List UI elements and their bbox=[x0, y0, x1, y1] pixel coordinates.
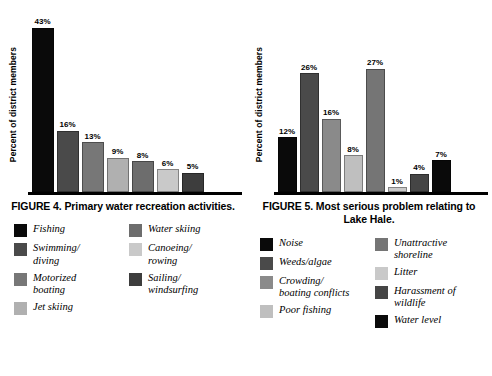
figure-4-legend: FishingSwimming/ divingMotorized boating… bbox=[0, 213, 246, 319]
bar-slot: 6% bbox=[155, 6, 180, 192]
legend-column-1: NoiseWeeds/algaeCrowding/ boating confli… bbox=[260, 237, 371, 333]
bar bbox=[300, 73, 319, 192]
bar-slot: 4% bbox=[408, 6, 430, 192]
bar bbox=[57, 131, 79, 192]
legend-item: Swimming/ diving bbox=[14, 242, 125, 266]
bar-slot: 12% bbox=[276, 6, 298, 192]
bar-slot: 16% bbox=[55, 6, 80, 192]
legend-item-label: Sailing/ windsurfing bbox=[148, 272, 198, 296]
legend-item-label: Swimming/ diving bbox=[33, 242, 80, 266]
legend-swatch-unattractive-shoreline bbox=[375, 238, 388, 251]
legend-column-2: Water skiingCanoeing/ rowingSailing/ win… bbox=[129, 223, 240, 319]
legend-item: Unattractive shoreline bbox=[375, 237, 486, 261]
figure-5-plot: 12%26%16%8%27%1%4%7% bbox=[272, 0, 492, 196]
figure-5-x-axis-line bbox=[274, 192, 488, 195]
bar bbox=[132, 161, 154, 192]
legend-item-label: Noise bbox=[279, 237, 303, 249]
bar bbox=[278, 137, 297, 192]
figure-5-y-axis-label-text: Percent of district members bbox=[254, 47, 264, 162]
bar bbox=[32, 28, 54, 192]
bar-value-label: 8% bbox=[137, 152, 149, 160]
legend-item-label: Litter bbox=[394, 266, 417, 278]
legend-swatch-harassment-of-wildlife bbox=[375, 286, 388, 299]
legend-swatch-crowding-boating-conflicts bbox=[260, 276, 273, 289]
legend-column-2: Unattractive shorelineLitterHarassment o… bbox=[375, 237, 486, 333]
legend-swatch-motorized-boating bbox=[14, 273, 27, 286]
bar-value-label: 6% bbox=[162, 160, 174, 168]
legend-item: Noise bbox=[260, 237, 371, 251]
legend-swatch-fishing bbox=[14, 224, 27, 237]
figure-5-bar-group: 12%26%16%8%27%1%4%7% bbox=[276, 6, 484, 192]
bar bbox=[344, 155, 363, 192]
bar-slot: 43% bbox=[30, 6, 55, 192]
legend-column-1: FishingSwimming/ divingMotorized boating… bbox=[14, 223, 125, 319]
bar-value-label: 16% bbox=[59, 121, 75, 129]
bar-value-label: 12% bbox=[279, 128, 295, 136]
legend-item-label: Unattractive shoreline bbox=[394, 237, 447, 261]
bar bbox=[432, 160, 451, 192]
legend-swatch-noise bbox=[260, 238, 273, 251]
legend-item-label: Poor fishing bbox=[279, 304, 331, 316]
legend-swatch-canoeing-rowing bbox=[129, 243, 142, 256]
bar-slot: 16% bbox=[320, 6, 342, 192]
legend-item: Litter bbox=[375, 266, 486, 280]
legend-item-label: Crowding/ boating conflicts bbox=[279, 275, 349, 299]
legend-item: Water skiing bbox=[129, 223, 240, 237]
bar-value-label: 5% bbox=[187, 163, 199, 171]
legend-item-label: Water skiing bbox=[148, 223, 200, 235]
legend-item-label: Water level bbox=[394, 314, 441, 326]
bar-value-label: 7% bbox=[435, 151, 447, 159]
bar bbox=[182, 173, 204, 192]
bar-value-label: 1% bbox=[391, 178, 403, 186]
legend-swatch-poor-fishing bbox=[260, 305, 273, 318]
bar bbox=[410, 174, 429, 192]
bar bbox=[157, 169, 179, 192]
legend-item: Motorized boating bbox=[14, 272, 125, 296]
bar-value-label: 9% bbox=[112, 148, 124, 156]
legend-item-label: Weeds/algae bbox=[279, 256, 332, 268]
legend-item: Weeds/algae bbox=[260, 256, 371, 270]
figures-page: Percent of district members 43%16%13%9%8… bbox=[0, 0, 492, 376]
bar-value-label: 4% bbox=[413, 164, 425, 172]
legend-swatch-jet-skiing bbox=[14, 302, 27, 315]
bar-slot: 27% bbox=[364, 6, 386, 192]
legend-item: Jet skiing bbox=[14, 301, 125, 315]
bar bbox=[366, 69, 385, 192]
bar-slot: 5% bbox=[180, 6, 205, 192]
bar-slot: 8% bbox=[342, 6, 364, 192]
figure-5-legend: NoiseWeeds/algaeCrowding/ boating confli… bbox=[246, 227, 492, 333]
bar-value-label: 27% bbox=[367, 59, 383, 67]
legend-item-label: Motorized boating bbox=[33, 272, 76, 296]
figure-5-panel: Percent of district members 12%26%16%8%2… bbox=[246, 0, 492, 376]
legend-item-label: Fishing bbox=[33, 223, 65, 235]
bar-value-label: 16% bbox=[323, 109, 339, 117]
bar-value-label: 26% bbox=[301, 64, 317, 72]
legend-item: Canoeing/ rowing bbox=[129, 242, 240, 266]
legend-swatch-weeds-algae bbox=[260, 257, 273, 270]
bar-slot: 9% bbox=[105, 6, 130, 192]
legend-swatch-water-skiing bbox=[129, 224, 142, 237]
legend-item: Harassment of wildlife bbox=[375, 285, 486, 309]
figure-4-y-axis-label-text: Percent of district members bbox=[8, 47, 18, 162]
figure-5-chart: Percent of district members 12%26%16%8%2… bbox=[246, 0, 492, 196]
legend-item-label: Jet skiing bbox=[33, 301, 73, 313]
bar bbox=[322, 119, 341, 192]
legend-item: Sailing/ windsurfing bbox=[129, 272, 240, 296]
bar bbox=[82, 142, 104, 192]
figure-4-caption: FIGURE 4. Primary water recreation activ… bbox=[0, 196, 246, 213]
bar-value-label: 13% bbox=[84, 133, 100, 141]
legend-item: Fishing bbox=[14, 223, 125, 237]
figure-4-plot: 43%16%13%9%8%6%5% bbox=[26, 0, 246, 196]
legend-swatch-sailing-windsurfing bbox=[129, 273, 142, 286]
legend-item-label: Harassment of wildlife bbox=[394, 285, 456, 309]
legend-item: Poor fishing bbox=[260, 304, 371, 318]
figure-4-bar-group: 43%16%13%9%8%6%5% bbox=[30, 6, 238, 192]
legend-swatch-water-level bbox=[375, 315, 388, 328]
legend-item: Water level bbox=[375, 314, 486, 328]
figure-5-y-axis-label: Percent of district members bbox=[246, 0, 272, 196]
figure-4-x-axis-line bbox=[28, 192, 242, 195]
bar-slot: 1% bbox=[386, 6, 408, 192]
figure-5-caption: FIGURE 5. Most serious problem relating … bbox=[246, 196, 492, 227]
legend-item: Crowding/ boating conflicts bbox=[260, 275, 371, 299]
bar-slot: 26% bbox=[298, 6, 320, 192]
